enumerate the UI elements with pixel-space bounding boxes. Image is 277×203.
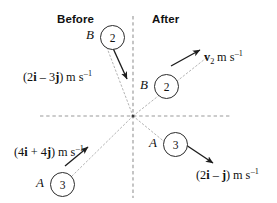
particle-mass-value-b-after: 2 <box>164 81 170 93</box>
particle-mass-value-a-before: 3 <box>60 179 66 191</box>
unit-exponent: –1 <box>76 144 84 153</box>
trajectory-lines-group <box>72 40 210 176</box>
particle-mass-circle-b-before: 2 <box>100 25 125 50</box>
velocity-label-b-after-velocity: v2 m s–1 <box>204 50 243 65</box>
unit-exponent: –1 <box>235 49 243 58</box>
vec-operator: – 3 <box>37 70 55 84</box>
velocity-arrows-group <box>65 46 213 166</box>
vec-open: (2 <box>23 70 33 84</box>
particle-letter-b-after: B <box>140 77 148 93</box>
velocity-label-a-before-velocity: (4i + 4j) m s–1 <box>14 145 84 160</box>
unit-metres: m <box>230 168 243 182</box>
particle-letter-b-before: B <box>86 27 94 43</box>
vec-open: (2 <box>196 168 206 182</box>
vec-open: (4 <box>14 145 24 159</box>
velocity-label-b-before-velocity: (2i – 3j) m s–1 <box>23 70 92 85</box>
vec-operator: + 4 <box>28 145 47 159</box>
particle-letter-a-before: A <box>36 175 44 191</box>
unit-metres: m <box>214 50 227 64</box>
particle-letter-a-after: A <box>149 135 157 151</box>
header-before: Before <box>57 13 94 25</box>
unit-seconds: s <box>68 145 76 159</box>
unit-seconds: s <box>76 70 84 84</box>
b-after-velocity-arrow <box>171 50 200 66</box>
origin-point <box>132 115 135 118</box>
unit-exponent: –1 <box>251 167 259 176</box>
particle-mass-circle-a-before: 3 <box>50 172 75 197</box>
unit-exponent: –1 <box>84 69 92 78</box>
particle-mass-value-b-before: 2 <box>110 32 116 44</box>
unit-seconds: s <box>227 50 235 64</box>
velocity-label-a-after-velocity: (2i – j) m s–1 <box>196 168 259 183</box>
unit-metres: m <box>55 145 68 159</box>
unit-seconds: s <box>243 168 251 182</box>
B-incoming-path <box>104 40 133 116</box>
unit-metres: m <box>63 70 76 84</box>
physics-collision-diagram: Before After B2A3B2A3 (2i – 3j) m s–1(4i… <box>0 0 277 203</box>
particle-mass-circle-a-after: 3 <box>163 132 188 157</box>
header-after: After <box>152 13 179 25</box>
b-before-velocity-arrow <box>112 46 127 79</box>
vec-operator: – <box>210 168 222 182</box>
particle-mass-circle-b-after: 2 <box>154 74 179 99</box>
particle-mass-value-a-after: 3 <box>173 139 179 151</box>
